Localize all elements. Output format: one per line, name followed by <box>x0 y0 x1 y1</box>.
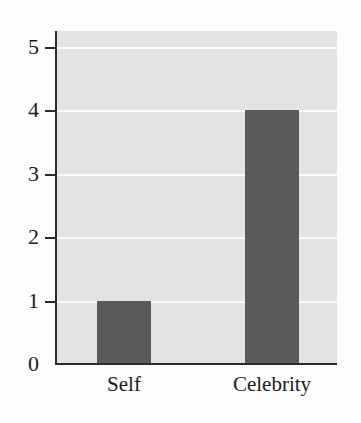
y-axis-tick-mark <box>45 301 56 303</box>
y-axis-tick-mark <box>45 237 56 239</box>
x-axis-tick-label: Celebrity <box>182 372 361 396</box>
y-axis-tick-label: 5 <box>9 36 39 58</box>
plot-area <box>56 31 337 364</box>
x-axis-line <box>56 363 337 365</box>
bar-chart-figure: 543210 SelfCelebrity <box>0 0 361 423</box>
y-axis-tick-label: 1 <box>9 290 39 312</box>
y-axis-tick-mark <box>45 47 56 49</box>
gridline <box>56 47 337 49</box>
y-axis-tick-label: 3 <box>9 163 39 185</box>
y-axis-tick-mark <box>45 110 56 112</box>
y-axis-tick-label: 4 <box>9 99 39 121</box>
y-axis-tick-mark <box>45 174 56 176</box>
y-axis-tick-label: 2 <box>9 226 39 248</box>
y-axis-line <box>55 31 57 365</box>
bar <box>245 110 299 364</box>
bar <box>97 301 151 364</box>
